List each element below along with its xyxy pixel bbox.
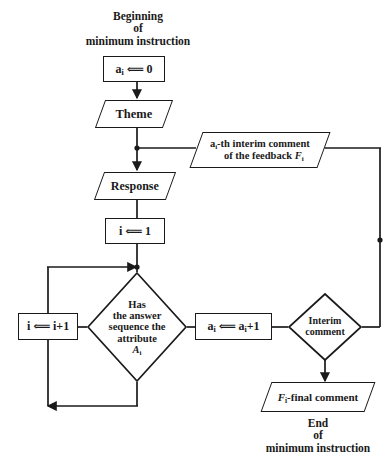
node-init-a-label: ai ⟸ 0 xyxy=(115,62,152,77)
end-caption: End of minimum instruction xyxy=(244,417,392,454)
node-theme-label: Theme xyxy=(101,107,167,122)
node-incr-a-label: ai ⟸ ai+1 xyxy=(207,319,259,334)
node-decision-interim-label: Interim comment xyxy=(288,293,362,361)
node-decision-interim: Interim comment xyxy=(288,293,362,361)
node-decision-attribute: Hasthe answersequence theattributeAi xyxy=(87,272,187,382)
node-feedback-label: ai-th interim comment of the feedback Fi xyxy=(197,138,323,163)
node-init-i: i ⟸ 1 xyxy=(105,218,165,244)
junction-dot-right-rail xyxy=(377,237,382,242)
node-final-comment: Fi-final comment xyxy=(261,382,376,412)
node-incr-i: i ⟸ i+1 xyxy=(18,313,78,340)
beginning-caption: Beginning of minimum instruction xyxy=(58,10,218,47)
node-feedback: ai-th interim comment of the feedback Fi xyxy=(189,132,330,168)
junction-dot-decision-loop xyxy=(134,264,139,269)
node-theme: Theme xyxy=(95,100,173,128)
node-response: Response xyxy=(94,172,176,200)
node-init-a: ai ⟸ 0 xyxy=(103,56,165,82)
node-decision-attribute-label: Hasthe answersequence theattributeAi xyxy=(87,272,187,382)
node-incr-a: ai ⟸ ai+1 xyxy=(195,313,272,340)
junction-dot-theme-response xyxy=(134,145,139,150)
node-init-i-label: i ⟸ 1 xyxy=(119,224,151,239)
node-incr-i-label: i ⟸ i+1 xyxy=(27,319,69,334)
node-response-label: Response xyxy=(100,179,170,194)
flowchart-canvas: Beginning of minimum instruction End of … xyxy=(0,0,392,459)
node-final-comment-label: Fi-final comment xyxy=(267,391,369,403)
